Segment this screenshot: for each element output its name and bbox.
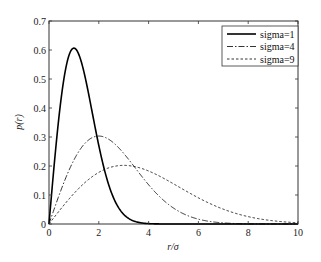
x-tick-label: 8 — [246, 227, 251, 238]
y-tick-label: 0.4 — [34, 103, 47, 114]
y-tick-label: 0.1 — [34, 190, 47, 201]
rayleigh-chart: 0246810 00.10.20.30.40.50.60.7 r/σ p(r) … — [0, 0, 321, 262]
x-axis-label: r/σ — [167, 241, 180, 252]
legend-label: sigma=9 — [260, 54, 295, 65]
x-tick-label: 6 — [196, 227, 201, 238]
legend-label: sigma=4 — [260, 41, 295, 52]
y-tick-label: 0 — [41, 219, 46, 230]
x-tick-label: 4 — [146, 227, 151, 238]
x-tick-label: 2 — [96, 227, 101, 238]
legend-label: sigma=1 — [260, 29, 295, 40]
y-tick-label: 0.5 — [34, 74, 47, 85]
x-tick-label: 0 — [47, 227, 52, 238]
y-tick-label: 0.3 — [34, 132, 47, 143]
y-tick-label: 0.2 — [34, 161, 47, 172]
legend: sigma=1sigma=4sigma=9 — [222, 26, 298, 66]
y-tick-label: 0.6 — [34, 45, 47, 56]
y-tick-label: 0.7 — [34, 16, 47, 27]
x-tick-label: 10 — [293, 227, 303, 238]
y-axis-label: p(r) — [13, 114, 25, 131]
